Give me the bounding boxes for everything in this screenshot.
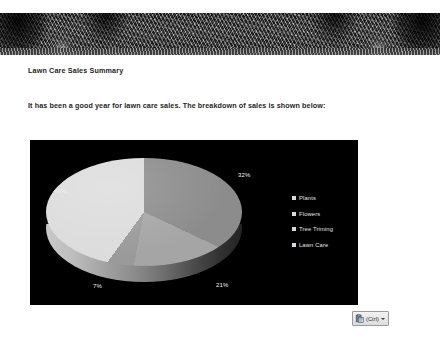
pie-label-plants: 32% bbox=[238, 172, 251, 178]
chevron-down-icon[interactable] bbox=[381, 318, 385, 320]
grass-banner-image bbox=[0, 13, 440, 55]
document-paragraph: It has been a good year for lawn care sa… bbox=[28, 101, 325, 110]
chart-legend: Plants Flowers Tree Triming Lawn Care bbox=[292, 195, 333, 248]
legend-swatch-icon bbox=[292, 196, 296, 200]
pie-label-lawn-care: 40% bbox=[54, 188, 67, 194]
legend-item-flowers[interactable]: Flowers bbox=[292, 211, 333, 217]
legend-swatch-icon bbox=[292, 227, 296, 231]
legend-swatch-icon bbox=[292, 212, 296, 216]
pie-plot-area: 32% 21% 7% 40% bbox=[40, 148, 255, 296]
pie-3d-body bbox=[46, 158, 242, 266]
page-title: Lawn Care Sales Summary bbox=[28, 66, 123, 75]
document-page: Lawn Care Sales Summary It has been a go… bbox=[0, 0, 440, 339]
pie-label-tree-triming: 7% bbox=[93, 283, 102, 289]
legend-label: Plants bbox=[299, 195, 316, 201]
pie-chart[interactable]: 32% 21% 7% 40% Plants Flowers Tree Trimi… bbox=[30, 140, 358, 305]
clipboard-icon bbox=[355, 314, 364, 323]
legend-item-lawn-care[interactable]: Lawn Care bbox=[292, 242, 333, 248]
legend-swatch-icon bbox=[292, 243, 296, 247]
legend-label: Tree Triming bbox=[299, 226, 333, 232]
legend-item-tree-triming[interactable]: Tree Triming bbox=[292, 226, 333, 232]
paste-options-label: (Ctrl) bbox=[366, 316, 379, 322]
legend-item-plants[interactable]: Plants bbox=[292, 195, 333, 201]
pie-label-flowers: 21% bbox=[216, 282, 229, 288]
legend-label: Flowers bbox=[299, 211, 320, 217]
pie-slices bbox=[46, 158, 242, 266]
legend-label: Lawn Care bbox=[299, 242, 328, 248]
paste-options-button[interactable]: (Ctrl) bbox=[352, 311, 389, 326]
